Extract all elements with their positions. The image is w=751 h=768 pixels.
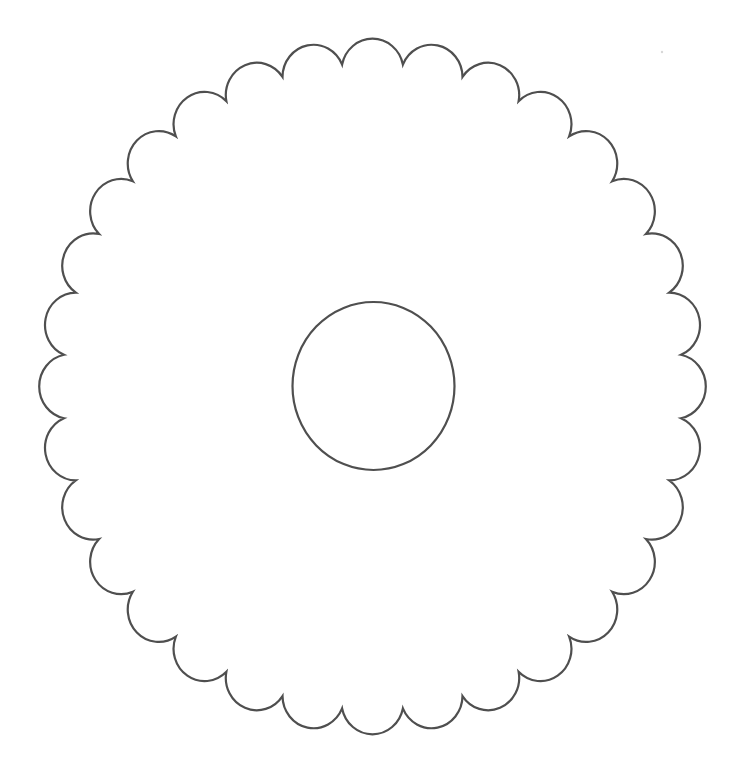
speck-mark (661, 51, 663, 53)
inner-circle (293, 302, 455, 470)
scalloped-circle-diagram (0, 0, 751, 768)
